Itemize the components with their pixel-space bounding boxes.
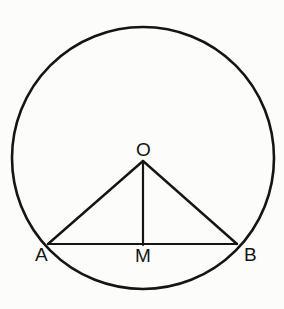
point-label-b: B [244, 245, 257, 264]
segment-OA [48, 161, 143, 244]
geometry-figure: O A M B [0, 0, 284, 309]
point-label-o: O [136, 140, 151, 159]
segment-OB [143, 161, 237, 244]
point-label-a: A [35, 245, 48, 264]
point-label-m: M [135, 246, 151, 265]
